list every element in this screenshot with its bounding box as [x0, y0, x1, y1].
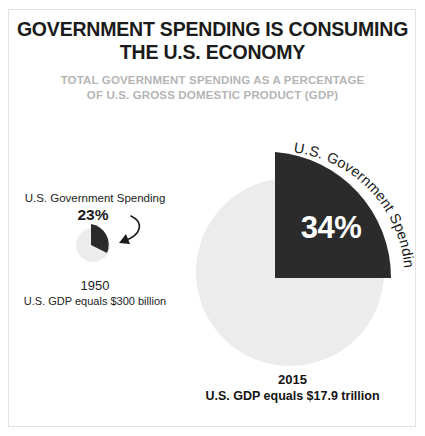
pie-1950-legend-label: U.S. Government Spending: [0, 191, 190, 205]
pie-2015-value-label: 34%: [301, 210, 362, 245]
infographic-canvas: GOVERNMENT SPENDING IS CONSUMING THE U.S…: [0, 0, 425, 436]
pie-1950-gdp: U.S. GDP equals $300 billion: [24, 295, 166, 307]
pie-2015-caption: 2015 U.S. GDP equals $17.9 trillion: [165, 371, 420, 404]
pie-2015-gdp: U.S. GDP equals $17.9 trillion: [205, 389, 379, 403]
pie-2015-year: 2015: [165, 371, 420, 388]
pie-1950-year: 1950: [0, 277, 190, 294]
pie-1950-value-label: 23%: [38, 206, 148, 224]
pie-1950-caption: 1950 U.S. GDP equals $300 billion: [0, 277, 190, 309]
